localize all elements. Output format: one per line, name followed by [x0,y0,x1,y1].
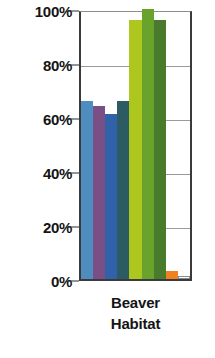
y-axis-tick-mark [68,119,79,120]
bar [154,20,166,279]
y-axis-tick-mark [68,65,79,66]
y-axis-tick-mark [68,281,79,282]
bar [117,101,129,279]
bar [93,106,105,279]
y-axis-tick-label: 20% [6,220,72,235]
y-axis-tick-mark [68,227,79,228]
x-axis-label-line2: Habitat [79,313,192,334]
bar [178,276,190,279]
x-axis-label-line1: Beaver [79,292,192,313]
y-axis-tick-label: 60% [6,112,72,127]
x-axis-label: Beaver Habitat [79,292,192,335]
bar [129,20,141,279]
bar [105,114,117,279]
y-axis-tick-label: 80% [6,58,72,73]
plot-area [79,11,192,281]
bar-chart: 100% 80% 60% 40% 20% 0% Beaver Habitat [0,0,215,358]
bar [81,101,93,279]
bar [166,271,178,279]
y-axis-tick-label: 40% [6,166,72,181]
y-axis-tick-mark [68,11,79,12]
y-axis-tick-label: 0% [6,274,72,289]
y-axis-tick-label: 100% [6,4,72,19]
bar-series-group [81,12,190,279]
y-axis-tick-mark [68,173,79,174]
bar [142,9,154,279]
